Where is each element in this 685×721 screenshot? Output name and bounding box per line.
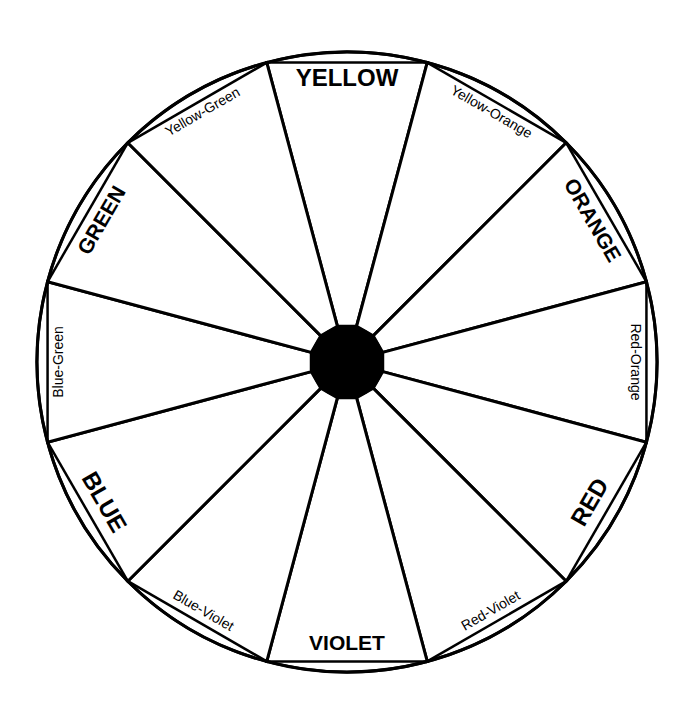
label-blue-green: Blue-Green xyxy=(50,326,66,398)
label-yellow: YELLOW xyxy=(296,64,399,91)
color-wheel: YELLOWYellow-OrangeORANGERed-OrangeREDRe… xyxy=(0,0,685,721)
label-violet: VIOLET xyxy=(309,631,385,654)
label-red-orange: Red-Orange xyxy=(628,323,644,400)
center-hub xyxy=(310,325,384,399)
